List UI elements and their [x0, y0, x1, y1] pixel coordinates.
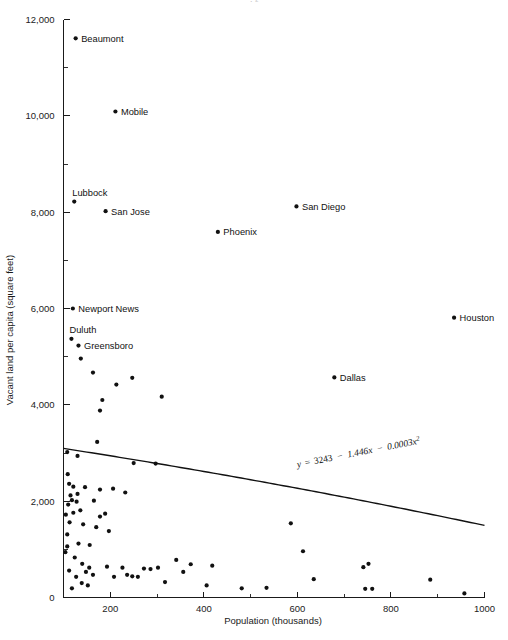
data-point [289, 521, 293, 525]
data-point [142, 567, 146, 571]
city-label-lubbock: Lubbock [72, 188, 108, 198]
data-point [88, 543, 92, 547]
y-tick-label: 12,000 [25, 14, 54, 25]
city-label-beaumont: Beaumont [81, 34, 124, 44]
data-point [87, 566, 91, 570]
data-points-unlabeled [63, 356, 466, 595]
y-axis-title: Vacant land per capita (square feet) [4, 255, 15, 405]
data-point [189, 562, 193, 566]
data-point [75, 454, 79, 458]
data-point [98, 409, 102, 413]
data-point-beaumont [74, 36, 78, 40]
data-point [92, 499, 96, 503]
data-point [71, 511, 75, 515]
data-point [98, 488, 102, 492]
data-point [98, 514, 102, 518]
regression-curve-group [64, 448, 485, 525]
data-point [107, 529, 111, 533]
data-point [76, 541, 80, 545]
city-label-newport-news: Newport News [78, 304, 139, 314]
data-point [71, 485, 75, 489]
data-point [94, 525, 98, 529]
data-point [79, 356, 83, 360]
city-label-dallas: Dallas [340, 373, 366, 383]
city-labels: BeaumontMobileLubbockSan JoseSan DiegoPh… [69, 34, 494, 383]
data-point [361, 565, 365, 569]
city-label-greensboro: Greensboro [84, 341, 133, 351]
city-label-mobile: Mobile [121, 107, 148, 117]
data-point [86, 583, 90, 587]
data-point [64, 513, 68, 517]
x-tick-label: 800 [383, 603, 399, 614]
data-point-houston [452, 316, 456, 320]
data-point [370, 587, 374, 591]
data-point [81, 522, 85, 526]
data-point [91, 370, 95, 374]
city-label-houston: Houston [460, 313, 495, 323]
data-point [80, 562, 84, 566]
data-point [366, 562, 370, 566]
city-label-san-jose: San Jose [111, 207, 150, 217]
y-tick-label: 2,000 [31, 496, 55, 507]
data-point [95, 440, 99, 444]
equation-text: y=3243−1.446x−0.0003x2 [295, 434, 422, 469]
data-point [65, 532, 69, 536]
data-point [73, 555, 77, 559]
data-point [462, 591, 466, 595]
data-point [67, 520, 71, 524]
data-point-lubbock [72, 199, 76, 203]
data-point [111, 487, 115, 491]
x-axis-ticks: 2004006008001000 [102, 592, 495, 614]
data-point [75, 500, 79, 504]
data-point [363, 587, 367, 591]
data-point [65, 544, 69, 548]
data-point [264, 586, 268, 590]
x-tick-label: 400 [196, 603, 212, 614]
y-axis-ticks: 02,0004,0006,0008,00010,00012,000 [25, 14, 69, 603]
data-point [301, 549, 305, 553]
data-point [174, 558, 178, 562]
regression-curve [64, 448, 485, 525]
data-point [114, 383, 118, 387]
x-tick-label: 1000 [474, 603, 495, 614]
y-tick-label: 6,000 [31, 303, 55, 314]
data-point [74, 575, 78, 579]
data-point [78, 508, 82, 512]
data-point [428, 578, 432, 582]
data-point [136, 575, 140, 579]
data-point [80, 581, 84, 585]
data-point [160, 395, 164, 399]
regression-equation-annotation: y=3243−1.446x−0.0003x2 [295, 434, 422, 469]
data-point [132, 461, 136, 465]
data-point [123, 490, 127, 494]
data-point-phoenix [216, 230, 220, 234]
data-point-san-jose [104, 209, 108, 213]
y-tick-label: 8,000 [31, 207, 55, 218]
data-point [154, 462, 158, 466]
data-point-newport-news [71, 306, 75, 310]
x-tick-label: 200 [102, 603, 118, 614]
city-label-duluth: Duluth [69, 325, 96, 335]
y-tick-label: 4,000 [31, 399, 55, 410]
data-point [65, 450, 69, 454]
data-point [163, 580, 167, 584]
data-point [84, 570, 88, 574]
data-point [130, 574, 134, 578]
data-point [63, 550, 67, 554]
y-tick-label: 0 [49, 592, 54, 603]
y-tick-label: 10,000 [25, 110, 54, 121]
data-point [67, 568, 71, 572]
data-point [240, 586, 244, 590]
data-point [66, 472, 70, 476]
data-point [148, 567, 152, 571]
x-axis-title: Population (thousands) [224, 615, 322, 626]
city-label-san-diego: San Diego [302, 202, 345, 212]
data-point [75, 492, 79, 496]
data-point [156, 566, 160, 570]
data-point [125, 573, 129, 577]
data-point [130, 376, 134, 380]
data-point-mobile [113, 109, 117, 113]
data-point [70, 586, 74, 590]
data-point [66, 502, 70, 506]
data-point [105, 565, 109, 569]
